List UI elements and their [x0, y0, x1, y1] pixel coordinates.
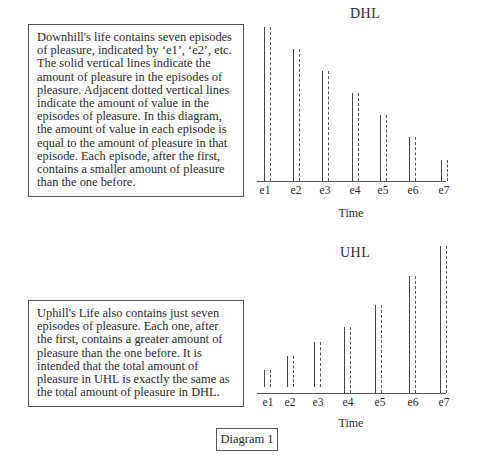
uhl-value-line-e2	[293, 356, 294, 387]
uhl-text-line: the total amount of pleasure in DHL.	[37, 386, 237, 399]
uhl-value-line-e3	[320, 342, 321, 387]
dhl-tick-e1: e1	[260, 184, 271, 196]
uhl-x-axis	[257, 393, 446, 394]
dhl-pleasure-line-e1	[264, 27, 265, 181]
dhl-tick-e3: e3	[320, 184, 331, 196]
dhl-tick-e7: e7	[439, 184, 450, 196]
uhl-value-line-e5	[381, 305, 382, 393]
uhl-pleasure-line-e3	[314, 342, 315, 387]
dhl-text-line: amount of pleasure in the episodes of	[37, 71, 237, 84]
dhl-text-line: the amount of value in each episode is	[37, 123, 237, 136]
dhl-pleasure-line-e5	[380, 115, 381, 181]
uhl-text-line: pleasure than the one before. It is	[37, 347, 237, 360]
dhl-value-line-e1	[270, 27, 271, 181]
dhl-tick-e6: e6	[408, 184, 419, 196]
dhl-pleasure-line-e6	[409, 137, 410, 181]
uhl-tick-e2: e2	[285, 396, 296, 408]
uhl-pleasure-line-e1	[264, 370, 265, 387]
uhl-tick-e6: e6	[408, 396, 419, 408]
dhl-text-line: than the one before.	[37, 176, 237, 189]
dhl-tick-e4: e4	[350, 184, 361, 196]
uhl-x-axis-label: Time	[339, 416, 364, 431]
dhl-value-line-e4	[358, 93, 359, 181]
uhl-chart-title: UHL	[340, 245, 370, 261]
dhl-pleasure-line-e3	[322, 71, 323, 181]
uhl-pleasure-line-e5	[375, 305, 376, 393]
diagram-caption: Diagram 1	[216, 428, 278, 451]
uhl-value-line-e6	[415, 276, 416, 393]
dhl-x-axis	[257, 181, 446, 182]
uhl-tick-e7: e7	[439, 396, 450, 408]
dhl-value-line-e3	[328, 71, 329, 181]
dhl-pleasure-line-e2	[293, 49, 294, 181]
dhl-tick-e5: e5	[378, 184, 389, 196]
uhl-text-line: the first, contains a greater amount of	[37, 333, 237, 346]
uhl-value-line-e7	[446, 246, 447, 393]
uhl-tick-e3: e3	[313, 396, 324, 408]
uhl-value-line-e4	[350, 327, 351, 393]
dhl-value-line-e7	[447, 160, 448, 181]
dhl-text-line: The solid vertical lines indicate the	[37, 57, 237, 70]
dhl-value-line-e5	[386, 115, 387, 181]
dhl-value-line-e6	[415, 137, 416, 181]
dhl-tick-e2: e2	[291, 184, 302, 196]
dhl-chart-title: DHL	[350, 6, 380, 22]
dhl-x-axis-label: Time	[339, 206, 364, 221]
dhl-pleasure-line-e7	[441, 160, 442, 181]
uhl-description-box: Uphill's Life also contains just seven e…	[28, 300, 244, 407]
uhl-value-line-e1	[270, 370, 271, 387]
uhl-tick-e5: e5	[375, 396, 386, 408]
uhl-pleasure-line-e4	[344, 327, 345, 393]
uhl-tick-e4: e4	[343, 396, 354, 408]
dhl-text-line: equal to the amount of pleasure in that	[37, 137, 237, 150]
dhl-pleasure-line-e4	[352, 93, 353, 181]
uhl-pleasure-line-e2	[287, 356, 288, 387]
uhl-pleasure-line-e7	[440, 246, 441, 393]
dhl-value-line-e2	[299, 49, 300, 181]
uhl-tick-e1: e1	[263, 396, 274, 408]
dhl-description-box: Downhill's life contains seven episodes …	[28, 24, 244, 197]
uhl-pleasure-line-e6	[409, 276, 410, 393]
